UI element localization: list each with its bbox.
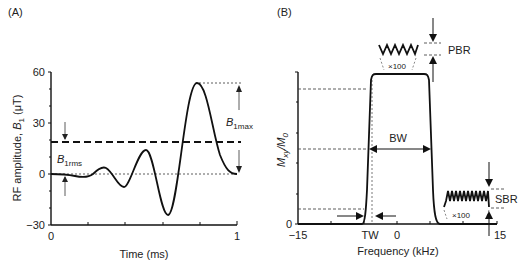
figure: (A) 60 30 0 −30 0 1 bbox=[0, 0, 518, 269]
pbr-inset bbox=[379, 18, 441, 82]
y-tick-60: 60 bbox=[33, 66, 45, 78]
y-axis-label: RF amplitude, B1 (μT) bbox=[11, 95, 26, 202]
y-axis-label: Mxy/M0 bbox=[275, 133, 290, 167]
panel-a-label: (A) bbox=[8, 6, 23, 18]
sbr-magnification: ×100 bbox=[452, 211, 471, 220]
x-axis-label: Frequency (kHz) bbox=[357, 245, 438, 257]
bw-label: BW bbox=[389, 132, 407, 144]
x-axis-label: Time (ms) bbox=[119, 248, 168, 260]
tw-arrows bbox=[337, 212, 396, 220]
y-tick-0: 0 bbox=[39, 168, 45, 180]
b1max-label: B1max bbox=[226, 116, 253, 131]
x-tick-1: 1 bbox=[234, 230, 240, 242]
x-tick-0: 0 bbox=[394, 229, 400, 241]
y-tick-minus30: −30 bbox=[26, 219, 45, 231]
y-tick-30: 30 bbox=[33, 117, 45, 129]
x-tick-tw: TW bbox=[361, 229, 379, 241]
bw-arrow bbox=[369, 145, 431, 153]
sbr-label: SBR bbox=[495, 193, 518, 205]
panel-b: (B) 0 Mxy/M0 −15 TW 0 15 Frequency (kHz) bbox=[275, 6, 518, 257]
pbr-label: PBR bbox=[448, 44, 471, 56]
panel-a: (A) 60 30 0 −30 0 1 bbox=[8, 6, 253, 260]
x-tick-0: 0 bbox=[48, 230, 54, 242]
pbr-magnification: ×100 bbox=[388, 62, 407, 71]
b1rms-label: B1rms bbox=[57, 153, 82, 168]
panel-b-label: (B) bbox=[277, 6, 292, 18]
x-tick-minus15: −15 bbox=[289, 229, 308, 241]
x-tick-15: 15 bbox=[494, 229, 506, 241]
rf-waveform bbox=[51, 83, 237, 215]
